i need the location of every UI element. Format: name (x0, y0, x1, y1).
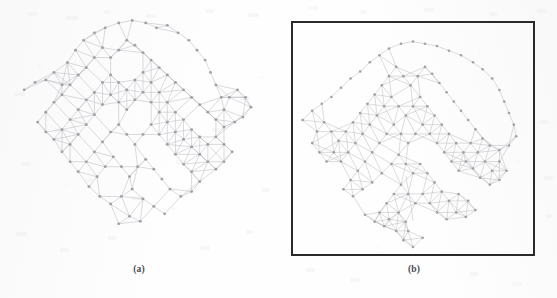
panel-b-caption: (b) (388, 264, 440, 274)
panel-a-caption: (a) (113, 264, 165, 274)
figure-panel-a (8, 8, 278, 256)
graph-a-edges (24, 20, 251, 223)
graph-b-edges (303, 41, 517, 247)
figure-panel-b (291, 21, 535, 256)
graph-a-canvas (8, 8, 278, 256)
figure-page: (a) (b) (0, 0, 557, 298)
graph-b-canvas (293, 23, 533, 254)
